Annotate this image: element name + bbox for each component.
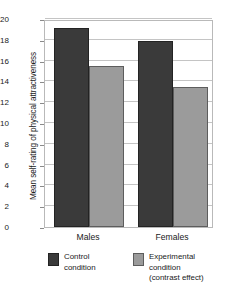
bar — [173, 87, 208, 227]
y-axis-tick-mark — [40, 145, 44, 146]
y-axis-tick-label: 4 — [0, 182, 9, 190]
y-axis-tick-mark — [40, 124, 44, 125]
chart-legend: Controlcondition Experimentalcondition(c… — [0, 252, 226, 301]
y-axis-tick-mark — [40, 62, 44, 63]
legend-entry-control: Controlcondition — [48, 252, 96, 273]
plot-area — [44, 20, 213, 228]
legend-label-line: (contrast effect) — [149, 273, 204, 284]
y-axis-tick-mark — [40, 166, 44, 167]
y-axis-tick-label: 0 — [0, 224, 9, 232]
legend-swatch-icon — [48, 253, 59, 266]
y-axis-title: Mean self-rating of physical attractiven… — [27, 21, 41, 231]
legend-label-line: Control — [64, 252, 96, 263]
legend-entry-experimental: Experimentalcondition(contrast effect) — [133, 252, 204, 284]
y-axis-tick-label: 14 — [0, 78, 9, 86]
legend-label-line: Experimental — [149, 252, 204, 263]
y-axis-tick-label: 10 — [0, 120, 9, 128]
x-axis-tick-label: Females — [137, 232, 207, 242]
y-axis-tick-mark — [40, 228, 44, 229]
y-axis-tick-mark — [40, 103, 44, 104]
x-axis-tick-label: Males — [53, 232, 123, 242]
bar-chart-figure: Mean self-rating of physical attractiven… — [0, 0, 226, 301]
gridline — [45, 18, 212, 19]
legend-label-line: condition — [149, 263, 204, 274]
y-axis-tick-mark — [40, 20, 44, 21]
y-axis-tick-label: 6 — [0, 162, 9, 170]
bar — [138, 41, 173, 227]
y-axis-tick-mark — [40, 207, 44, 208]
y-axis-tick-label: 12 — [0, 99, 9, 107]
y-axis-tick-label: 20 — [0, 16, 9, 24]
y-axis-tick-mark — [40, 186, 44, 187]
y-axis-tick-label: 2 — [0, 203, 9, 211]
bar — [89, 66, 124, 227]
y-axis-tick-label: 16 — [0, 58, 9, 66]
legend-label: Controlcondition — [64, 252, 96, 273]
y-axis-tick-label: 8 — [0, 141, 9, 149]
legend-label: Experimentalcondition(contrast effect) — [149, 252, 204, 284]
legend-swatch-icon — [133, 253, 144, 266]
bar — [54, 28, 89, 227]
legend-label-line: condition — [64, 263, 96, 274]
y-axis-tick-label: 18 — [0, 37, 9, 45]
y-axis-tick-mark — [40, 82, 44, 83]
y-axis-tick-mark — [40, 41, 44, 42]
